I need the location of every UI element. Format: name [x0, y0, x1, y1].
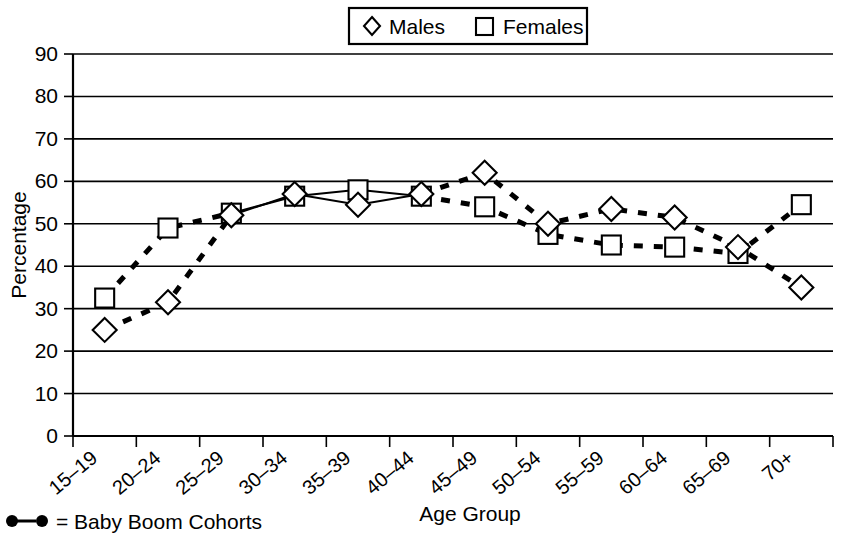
y-tick-label: 90 [35, 42, 58, 65]
legend: Males Females [349, 8, 587, 44]
data-point-female [159, 219, 178, 238]
age-group-percentage-line-chart: 0102030405060708090 15–1920–2425–2930–34… [0, 0, 849, 541]
y-tick-label: 60 [35, 169, 58, 192]
data-point-female [792, 195, 811, 214]
footnote-dot-right-icon [36, 515, 48, 527]
legend-label-males: Males [389, 15, 445, 38]
y-tick-label: 40 [35, 254, 58, 277]
x-axis-title: Age Group [419, 502, 521, 525]
data-point-female [665, 238, 684, 257]
y-tick-label: 70 [35, 127, 58, 150]
footnote-dot-left-icon [6, 515, 18, 527]
y-tick-label: 50 [35, 212, 58, 235]
y-tick-label: 80 [35, 84, 58, 107]
footnote-label: = Baby Boom Cohorts [56, 510, 262, 533]
y-tick-label: 30 [35, 297, 58, 320]
y-tick-label: 0 [46, 424, 58, 447]
chart-container: 0102030405060708090 15–1920–2425–2930–34… [0, 0, 849, 541]
y-tick-label: 10 [35, 382, 58, 405]
square-icon [476, 18, 493, 35]
data-point-female [95, 289, 114, 308]
data-point-female [475, 197, 494, 216]
data-point-female [602, 236, 621, 255]
legend-entry-females: Females [476, 15, 584, 38]
y-tick-label: 20 [35, 339, 58, 362]
legend-label-females: Females [503, 15, 584, 38]
y-axis-title: Percentage [7, 191, 30, 298]
